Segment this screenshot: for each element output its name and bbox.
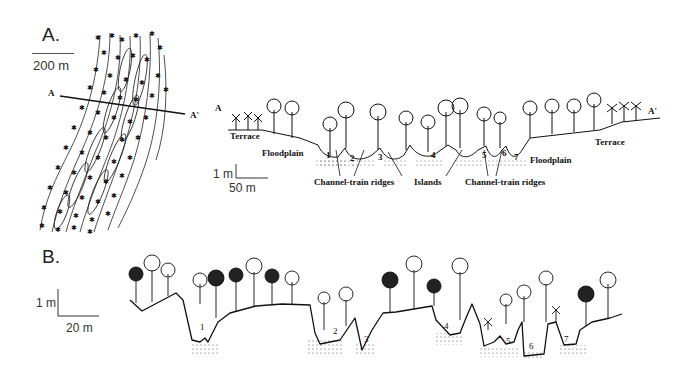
b-channel-number-5: 5 [506,336,511,346]
b-horizontal-scale-label: 20 m [66,321,93,335]
b-vertical-scale-label: 1 m [36,296,56,310]
b-channel-number-2: 2 [333,326,338,336]
cross-section-b-profile [0,0,674,378]
b-channel-number-1: 1 [200,322,205,332]
b-channel-number-4: 4 [444,321,449,331]
b-channel-number-7: 7 [564,334,569,344]
b-channel-number-3: 3 [364,334,369,344]
b-channel-number-6: 6 [529,341,534,351]
